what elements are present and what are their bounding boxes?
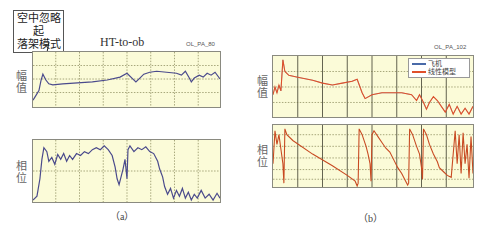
- plot-a-phase: [32, 139, 221, 203]
- chart-title: HT-to-ob: [100, 35, 144, 50]
- ylabel-magnitude: 幅值: [12, 70, 28, 94]
- caption-a: （a）: [110, 208, 134, 223]
- legend-item-aircraft: 飞机: [412, 60, 466, 68]
- chart-code: OL_PA_102: [434, 44, 466, 50]
- legend: 飞机 线性模型: [408, 58, 470, 78]
- legend-item-linear-model: 线性模型: [412, 68, 466, 76]
- callout-line-2: 落架模式: [16, 38, 61, 51]
- ylabel-phase: 相位: [12, 160, 28, 184]
- legend-swatch: [412, 71, 426, 73]
- callout-line-1: 空中忽略起: [16, 12, 61, 38]
- chart-code: OL_PA_80: [186, 41, 215, 47]
- legend-label: 飞机: [428, 60, 442, 68]
- ylabel-phase: 相位: [253, 144, 269, 168]
- plot-b-phase: [272, 124, 474, 188]
- ylabel-magnitude: 幅值: [253, 75, 269, 99]
- annotation-callout: 空中忽略起 落架模式: [13, 10, 64, 53]
- caption-b: （b）: [358, 210, 383, 225]
- legend-swatch: [412, 63, 426, 65]
- plot-a-magnitude: [32, 51, 221, 108]
- legend-label: 线性模型: [428, 68, 456, 76]
